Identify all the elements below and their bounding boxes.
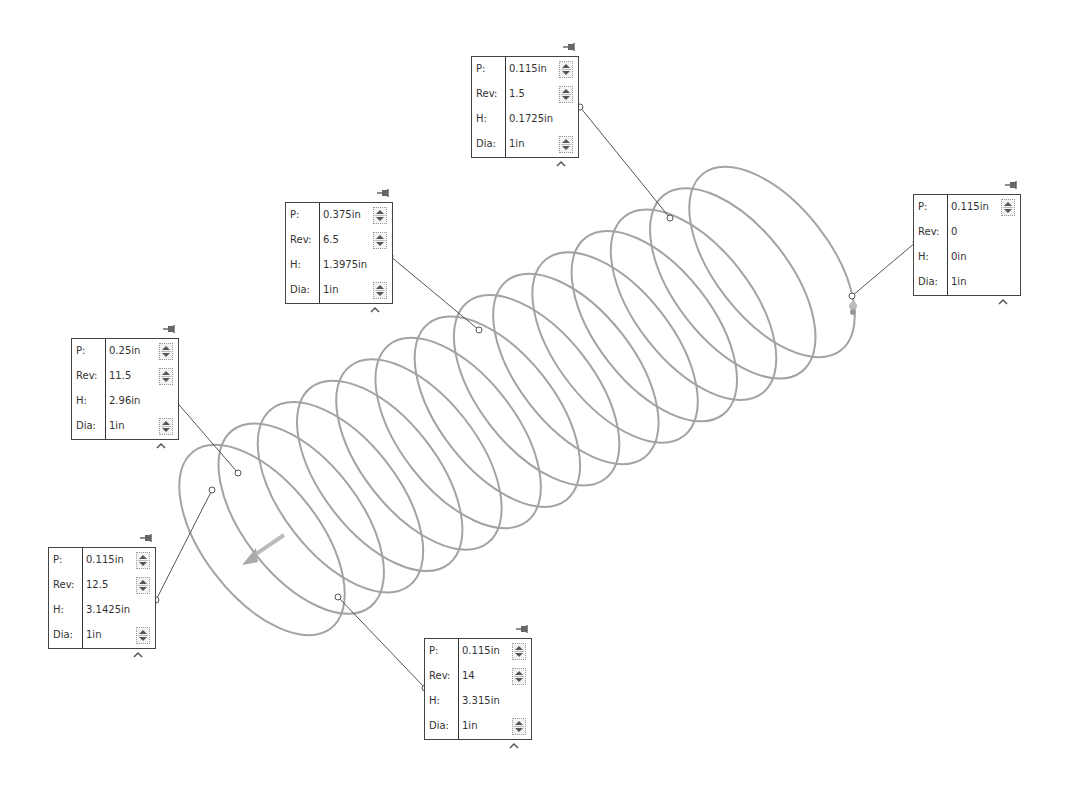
- spinner-icon[interactable]: [512, 718, 526, 735]
- caret-up-icon[interactable]: [556, 160, 566, 168]
- param-row-h: H: 3.315in: [425, 689, 531, 714]
- pin-icon[interactable]: [1005, 180, 1019, 190]
- spinner-icon[interactable]: [559, 86, 573, 103]
- param-label: P:: [476, 63, 485, 74]
- leader-anchors[interactable]: [153, 104, 919, 691]
- param-value[interactable]: 11.5: [109, 370, 131, 381]
- param-value[interactable]: 14: [462, 670, 475, 681]
- helix-coil: [422, 266, 651, 514]
- param-value[interactable]: 0.115in: [951, 201, 989, 212]
- param-value[interactable]: 0.375in: [323, 209, 361, 220]
- spinner-icon[interactable]: [559, 61, 573, 78]
- param-row-dia: Dia: 1in: [49, 623, 155, 648]
- param-row-h: H: 0in: [914, 245, 1020, 270]
- helix-spring[interactable]: [147, 138, 886, 664]
- pin-icon[interactable]: [163, 324, 177, 334]
- spinner-icon[interactable]: [136, 552, 150, 569]
- spinner-icon[interactable]: [136, 627, 150, 644]
- param-value[interactable]: 1in: [86, 629, 101, 640]
- param-value[interactable]: 1.3975in: [323, 259, 367, 270]
- spinner-icon[interactable]: [136, 577, 150, 594]
- parameter-table: P: 0.115in Rev: 0 H: 0in Dia: 1in: [913, 194, 1021, 296]
- parameter-callout[interactable]: P: 0.115in Rev: 12.5 H: 3.1425in Dia: 1i…: [48, 533, 156, 645]
- param-row-rev: Rev: 12.5: [49, 573, 155, 598]
- param-value[interactable]: 1in: [462, 720, 477, 731]
- helix-coil: [540, 202, 769, 450]
- param-row-p: P: 0.115in: [472, 57, 578, 82]
- spinner-icon[interactable]: [512, 668, 526, 685]
- param-value[interactable]: 0.115in: [462, 645, 500, 656]
- parameter-callout[interactable]: P: 0.115in Rev: 1.5 H: 0.1725in Dia: 1in: [471, 42, 579, 154]
- param-label: P:: [76, 345, 85, 356]
- param-row-h: H: 3.1425in: [49, 598, 155, 623]
- param-row-p: P: 0.115in: [425, 639, 531, 664]
- leader-lines: [156, 107, 916, 688]
- param-row-rev: Rev: 14: [425, 664, 531, 689]
- param-value[interactable]: 0.115in: [509, 63, 547, 74]
- parameter-callout[interactable]: P: 0.115in Rev: 14 H: 3.315in Dia: 1in: [424, 624, 532, 736]
- pin-icon[interactable]: [140, 533, 154, 543]
- param-value[interactable]: 0.1725in: [509, 113, 553, 124]
- param-row-p: P: 0.115in: [914, 195, 1020, 220]
- helix-coil: [657, 138, 886, 386]
- param-row-p: P: 0.115in: [49, 548, 155, 573]
- spinner-icon[interactable]: [373, 207, 387, 224]
- param-row-p: P: 0.25in: [72, 339, 178, 364]
- param-label: Dia:: [290, 284, 310, 295]
- caret-up-icon[interactable]: [998, 298, 1008, 306]
- param-label: Rev:: [290, 234, 311, 245]
- param-value[interactable]: 1in: [323, 284, 338, 295]
- param-value[interactable]: 1.5: [509, 88, 525, 99]
- spinner-icon[interactable]: [512, 643, 526, 660]
- parameter-table: P: 0.25in Rev: 11.5 H: 2.96in Dia: 1in: [71, 338, 179, 440]
- param-value[interactable]: 3.1425in: [86, 604, 130, 615]
- param-value[interactable]: 6.5: [323, 234, 339, 245]
- caret-up-icon[interactable]: [370, 306, 380, 314]
- param-label: H:: [76, 395, 87, 406]
- spinner-icon[interactable]: [373, 232, 387, 249]
- param-value[interactable]: 1in: [509, 138, 524, 149]
- param-label: Dia:: [53, 629, 73, 640]
- pin-icon[interactable]: [516, 624, 530, 634]
- pin-icon[interactable]: [377, 188, 391, 198]
- param-value[interactable]: 0: [951, 226, 957, 237]
- param-row-rev: Rev: 6.5: [286, 228, 392, 253]
- caret-up-icon[interactable]: [509, 742, 519, 750]
- spinner-icon[interactable]: [373, 282, 387, 299]
- parameter-callout[interactable]: P: 0.115in Rev: 0 H: 0in Dia: 1in: [913, 180, 1021, 292]
- helix-coil: [383, 288, 612, 536]
- pin-icon[interactable]: [563, 42, 577, 52]
- param-value[interactable]: 12.5: [86, 579, 108, 590]
- spinner-icon[interactable]: [159, 418, 173, 435]
- param-row-h: H: 2.96in: [72, 389, 178, 414]
- caret-up-icon[interactable]: [133, 651, 143, 659]
- param-value[interactable]: 0.25in: [109, 345, 140, 356]
- caret-up-icon[interactable]: [156, 442, 166, 450]
- param-label: Rev:: [76, 370, 97, 381]
- parameter-table: P: 0.115in Rev: 14 H: 3.315in Dia: 1in: [424, 638, 532, 740]
- param-value[interactable]: 2.96in: [109, 395, 140, 406]
- param-row-dia: Dia: 1in: [72, 414, 178, 439]
- param-label: P:: [429, 645, 438, 656]
- helix-coil: [461, 245, 690, 493]
- arrow-icon[interactable]: [242, 535, 284, 565]
- spinner-icon[interactable]: [159, 368, 173, 385]
- spinner-icon[interactable]: [1001, 199, 1015, 216]
- parameter-callout[interactable]: P: 0.25in Rev: 11.5 H: 2.96in Dia: 1in: [71, 324, 179, 436]
- param-value[interactable]: 0in: [951, 251, 966, 262]
- spinner-icon[interactable]: [159, 343, 173, 360]
- param-row-rev: Rev: 11.5: [72, 364, 178, 389]
- helix-coil: [304, 330, 533, 578]
- param-label: P:: [918, 201, 927, 212]
- spinner-icon[interactable]: [559, 136, 573, 153]
- param-value[interactable]: 1in: [951, 276, 966, 287]
- helix-coil: [343, 309, 572, 557]
- param-label: Dia:: [429, 720, 449, 731]
- param-value[interactable]: 1in: [109, 420, 124, 431]
- param-value[interactable]: 0.115in: [86, 554, 124, 565]
- param-row-dia: Dia: 1in: [286, 278, 392, 303]
- parameter-callout[interactable]: P: 0.375in Rev: 6.5 H: 1.3975in Dia: 1in: [285, 188, 393, 300]
- end-handle-icon[interactable]: [849, 302, 857, 315]
- param-label: H:: [53, 604, 64, 615]
- param-value[interactable]: 3.315in: [462, 695, 500, 706]
